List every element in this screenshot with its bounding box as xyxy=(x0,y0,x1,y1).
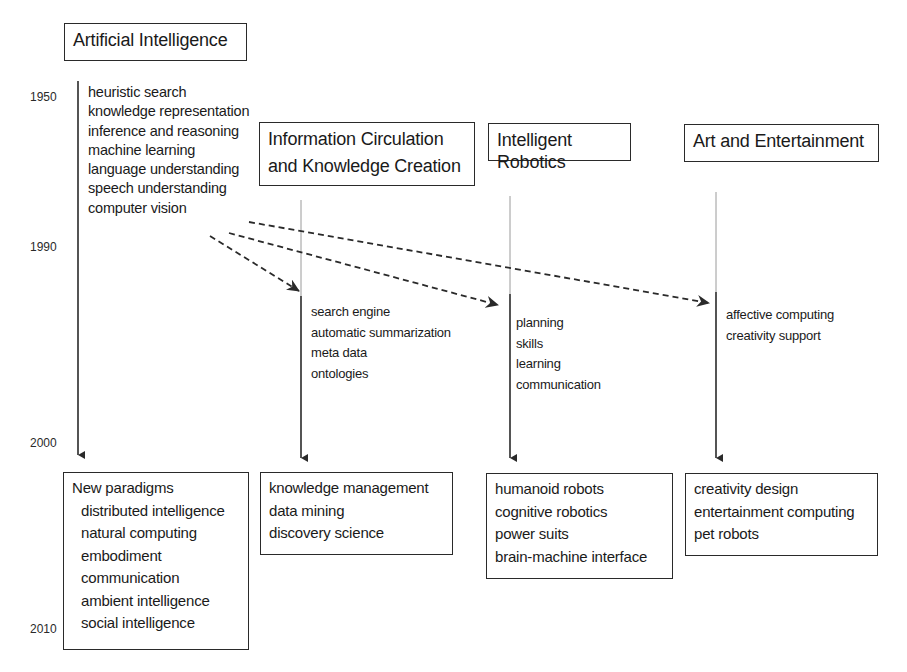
outcome-item: pet robots xyxy=(694,523,869,546)
title-information-circulation: Information Circulation and Knowledge Cr… xyxy=(259,122,475,186)
topic-item: ontologies xyxy=(311,364,451,385)
year-label-2000: 2000 xyxy=(30,436,57,450)
topic-item: speech understanding xyxy=(88,179,249,198)
art-mid-topics: affective computing creativity support xyxy=(726,305,834,346)
outcome-item: ambient intelligence xyxy=(72,590,240,613)
topic-item: meta data xyxy=(311,343,451,364)
outcome-item: power suits xyxy=(495,523,664,546)
outcome-item: communication xyxy=(72,567,240,590)
title-intelligent-robotics: Intelligent Robotics xyxy=(488,123,631,161)
outcome-item: brain-machine interface xyxy=(495,546,664,569)
robotics-outcome-box: humanoid robots cognitive robotics power… xyxy=(486,473,673,579)
topic-item: search engine xyxy=(311,302,451,323)
title-art-and-entertainment: Art and Entertainment xyxy=(684,124,879,162)
topic-item: inference and reasoning xyxy=(88,122,249,141)
outcome-item: cognitive robotics xyxy=(495,501,664,524)
title-artificial-intelligence: Artificial Intelligence xyxy=(64,23,247,61)
topic-item: communication xyxy=(516,375,601,396)
outcome-item: humanoid robots xyxy=(495,478,664,501)
art-outcome-box: creativity design entertainment computin… xyxy=(685,473,878,556)
outcome-item: natural computing xyxy=(72,522,240,545)
topic-item: learning xyxy=(516,354,601,375)
outcome-item: entertainment computing xyxy=(694,501,869,524)
outcome-item: discovery science xyxy=(269,522,444,545)
topic-item: creativity support xyxy=(726,326,834,347)
year-label-1990: 1990 xyxy=(30,240,57,254)
topic-item: heuristic search xyxy=(88,83,249,102)
arrow-ai-to-art xyxy=(249,222,709,303)
title-text: Artificial Intelligence xyxy=(73,30,227,50)
year-label-1950: 1950 xyxy=(30,90,57,104)
outcome-item: social intelligence xyxy=(72,612,240,635)
arrow-ai-to-robotics xyxy=(229,233,498,305)
title-line-2: and Knowledge Creation xyxy=(268,155,466,177)
outcome-item: knowledge management xyxy=(269,477,444,500)
outcome-item: distributed intelligence xyxy=(72,500,240,523)
title-text: Intelligent Robotics xyxy=(497,130,572,172)
ai-outcome-box: New paradigms distributed intelligence n… xyxy=(63,472,249,650)
info-outcome-box: knowledge management data mining discove… xyxy=(260,472,453,555)
title-text: Art and Entertainment xyxy=(693,131,864,151)
outcome-item: embodiment xyxy=(72,545,240,568)
topic-item: automatic summarization xyxy=(311,323,451,344)
topic-item: computer vision xyxy=(88,199,249,218)
outcome-item: creativity design xyxy=(694,478,869,501)
robotics-mid-topics: planning skills learning communication xyxy=(516,313,601,395)
year-label-2010: 2010 xyxy=(30,622,57,636)
topic-item: planning xyxy=(516,313,601,334)
topic-item: language understanding xyxy=(88,160,249,179)
topic-item: knowledge representation xyxy=(88,102,249,121)
arrow-ai-to-info xyxy=(210,236,299,291)
ai-early-topics: heuristic search knowledge representatio… xyxy=(88,83,249,218)
title-line-1: Information Circulation xyxy=(268,128,466,150)
info-mid-topics: search engine automatic summarization me… xyxy=(311,302,451,384)
outcome-item: data mining xyxy=(269,500,444,523)
topic-item: skills xyxy=(516,334,601,355)
topic-item: machine learning xyxy=(88,141,249,160)
topic-item: affective computing xyxy=(726,305,834,326)
outcome-heading: New paradigms xyxy=(72,477,240,500)
